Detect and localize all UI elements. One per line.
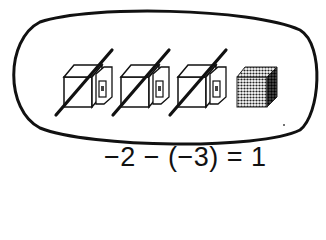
cube-tab-dot <box>215 86 218 91</box>
equation-text: −2 − (−3) = 1 <box>104 142 267 173</box>
cube-tab-dot <box>158 86 161 91</box>
cube-tab-dot <box>101 86 104 91</box>
positive-cube <box>237 67 277 107</box>
negative-cube <box>56 50 112 115</box>
negative-cube <box>113 50 169 115</box>
cube-front-face <box>237 77 267 107</box>
negative-cube <box>170 50 226 115</box>
speck <box>283 124 285 126</box>
